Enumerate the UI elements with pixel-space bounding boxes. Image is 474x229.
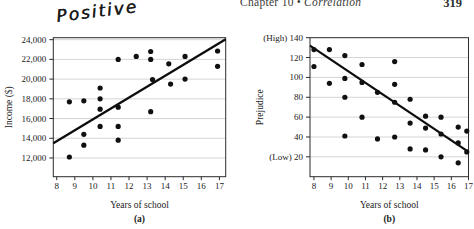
data-point: [116, 57, 121, 62]
data-point: [182, 77, 187, 82]
trend-line: [310, 46, 469, 152]
data-point: [311, 64, 316, 69]
data-point: [342, 53, 347, 58]
y-tick-label: (Low) 20: [269, 152, 303, 162]
x-tick-label: 16: [447, 181, 457, 191]
data-point: [116, 138, 121, 143]
data-point: [464, 128, 469, 133]
data-point: [67, 154, 72, 159]
handwritten-annotation: Positive: [55, 0, 139, 26]
x-tick-label: 13: [395, 181, 405, 191]
x-tick-label: 11: [361, 181, 370, 191]
data-point: [148, 49, 153, 54]
y-tick-label: 100: [290, 72, 304, 82]
x-tick-label: 13: [143, 181, 153, 191]
x-tick-label: 16: [197, 181, 207, 191]
y-axis-title: Prejudice: [255, 89, 265, 125]
data-point: [423, 147, 428, 152]
data-point: [375, 90, 380, 95]
x-tick-label: 12: [378, 181, 387, 191]
x-tick-label: 9: [73, 181, 78, 191]
page-number: 319: [430, 0, 462, 11]
header-separator: •: [297, 0, 301, 8]
scatter-chart-income: 24,00022,00020,00018,00016,00014,00012,0…: [0, 30, 240, 229]
y-tick-label: 18,000: [22, 94, 47, 104]
y-tick-label: 40: [294, 132, 304, 142]
scatter-chart-prejudice: (High) 140120100806040(Low) 208910111213…: [248, 30, 474, 229]
chart-sublabel: (a): [134, 214, 145, 225]
data-point: [456, 160, 461, 165]
chart-sublabel: (b): [383, 214, 395, 225]
data-point: [327, 47, 332, 52]
y-tick-label: 22,000: [22, 54, 47, 64]
data-point: [392, 59, 397, 64]
data-point: [168, 81, 173, 86]
x-tick-label: 17: [464, 181, 474, 191]
data-point: [359, 80, 364, 85]
x-tick-label: 11: [107, 181, 116, 191]
x-tick-label: 15: [430, 181, 440, 191]
y-tick-label: 12,000: [22, 153, 47, 163]
x-tick-label: 12: [125, 181, 134, 191]
x-tick-label: 9: [329, 181, 334, 191]
data-point: [342, 95, 347, 100]
data-point: [215, 48, 220, 53]
data-point: [98, 96, 103, 101]
data-point: [98, 85, 103, 90]
x-tick-label: 10: [344, 181, 354, 191]
data-point: [81, 143, 86, 148]
data-point: [67, 99, 72, 104]
data-point: [182, 54, 187, 59]
y-tick-label: (High) 140: [263, 33, 303, 43]
header-chapter: Chapter 10: [240, 0, 294, 8]
data-point: [342, 76, 347, 81]
y-axis-title: Income ($): [4, 86, 15, 128]
y-tick-label: 16,000: [22, 114, 47, 124]
data-point: [423, 125, 428, 130]
x-axis-title: Years of school: [360, 200, 419, 210]
data-point: [392, 82, 397, 87]
x-tick-label: 15: [179, 181, 189, 191]
data-point: [456, 124, 461, 129]
data-point: [408, 97, 413, 102]
data-point: [408, 120, 413, 125]
data-point: [81, 132, 86, 137]
plot-frame: [53, 38, 225, 177]
x-tick-label: 14: [412, 181, 422, 191]
data-point: [311, 47, 316, 52]
x-tick-label: 10: [88, 181, 98, 191]
data-point: [116, 105, 121, 110]
y-tick-label: 80: [294, 92, 304, 102]
data-point: [148, 109, 153, 114]
x-tick-label: 8: [312, 181, 317, 191]
data-point: [438, 115, 443, 120]
data-point: [81, 98, 86, 103]
data-point: [116, 124, 121, 129]
y-tick-label: 60: [294, 112, 304, 122]
data-point: [359, 115, 364, 120]
data-point: [98, 124, 103, 129]
data-point: [98, 107, 103, 112]
y-tick-label: 24,000: [22, 35, 47, 45]
data-point: [166, 61, 171, 66]
y-tick-label: 120: [290, 53, 304, 63]
trend-line: [53, 39, 225, 143]
data-point: [438, 154, 443, 159]
x-tick-label: 14: [161, 181, 171, 191]
header-section: Correlation: [304, 0, 361, 8]
data-point: [392, 100, 397, 105]
data-point: [150, 77, 155, 82]
data-point: [456, 140, 461, 145]
x-axis-title: Years of school: [110, 200, 169, 210]
data-point: [215, 64, 220, 69]
data-point: [148, 57, 153, 62]
data-point: [392, 134, 397, 139]
data-point: [423, 114, 428, 119]
data-point: [438, 131, 443, 136]
y-tick-label: 14,000: [22, 133, 47, 143]
data-point: [359, 62, 364, 67]
data-point: [134, 54, 139, 59]
x-tick-label: 17: [215, 181, 225, 191]
data-point: [327, 81, 332, 86]
data-point: [408, 146, 413, 151]
